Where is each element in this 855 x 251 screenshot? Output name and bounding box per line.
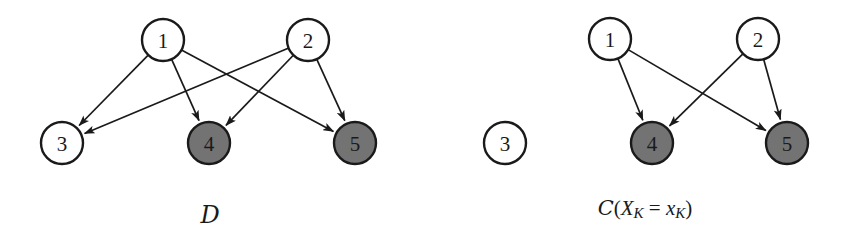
edge-1-to-5 [182, 50, 333, 131]
panel-caption-panel-intervened: C(XK = xK) [598, 196, 693, 221]
node-5-observed[interactable]: 5 [766, 122, 808, 164]
node-label: 1 [605, 28, 616, 52]
nodes-layer: 1234512345 [41, 18, 808, 164]
node-1-latent[interactable]: 1 [142, 19, 184, 61]
edge-1-to-5 [629, 50, 766, 131]
captions-layer: DC(XK = xK) [199, 196, 692, 229]
node-3-latent[interactable]: 3 [484, 122, 526, 164]
node-label: 1 [158, 29, 169, 53]
node-label: 3 [500, 132, 511, 156]
node-label: 4 [204, 132, 215, 156]
graph-canvas: 1234512345 DC(XK = xK) [0, 0, 855, 251]
node-4-observed[interactable]: 4 [188, 122, 230, 164]
edge-2-to-5 [764, 60, 781, 120]
edge-1-to-3 [79, 55, 148, 125]
panel-caption-panel-dag: D [199, 201, 219, 229]
node-label: 4 [647, 132, 658, 156]
node-3-latent[interactable]: 3 [41, 122, 83, 164]
node-1-latent[interactable]: 1 [589, 18, 631, 60]
edge-1-to-4 [618, 59, 643, 120]
node-label: 2 [303, 29, 314, 53]
node-2-latent[interactable]: 2 [737, 18, 779, 60]
edge-2-to-5 [317, 60, 345, 121]
edge-2-to-4 [226, 56, 293, 126]
node-4-observed[interactable]: 4 [631, 122, 673, 164]
node-label: 3 [57, 132, 68, 156]
node-label: 2 [753, 28, 764, 52]
figure-root: 1234512345 DC(XK = xK) [0, 0, 855, 251]
node-label: 5 [782, 132, 793, 156]
edges-layer [79, 48, 780, 133]
node-5-observed[interactable]: 5 [334, 122, 376, 164]
node-label: 5 [350, 132, 361, 156]
edge-1-to-4 [172, 60, 199, 121]
edge-2-to-4 [669, 54, 742, 126]
node-2-latent[interactable]: 2 [287, 19, 329, 61]
